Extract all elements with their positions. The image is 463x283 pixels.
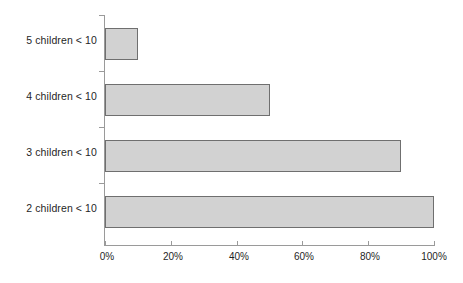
x-axis-tick bbox=[237, 241, 238, 246]
y-axis-category-label: 3 children < 10 bbox=[0, 146, 97, 158]
x-axis-tick-label: 40% bbox=[229, 251, 249, 263]
chart-row: 3 children < 10 bbox=[0, 127, 463, 183]
x-axis-tick bbox=[105, 241, 106, 246]
bar bbox=[105, 140, 401, 172]
bar bbox=[105, 28, 138, 60]
horizontal-bar-chart: 5 children < 10 4 children < 10 3 childr… bbox=[0, 0, 463, 283]
y-axis-tick bbox=[99, 71, 105, 72]
x-axis-line bbox=[104, 245, 435, 246]
x-axis-tick bbox=[434, 241, 435, 246]
x-axis-tick-label: 80% bbox=[360, 251, 380, 263]
chart-row: 4 children < 10 bbox=[0, 71, 463, 127]
x-axis-tick bbox=[302, 241, 303, 246]
chart-row: 2 children < 10 bbox=[0, 183, 463, 239]
x-axis-tick bbox=[368, 241, 369, 246]
x-axis-tick-label: 20% bbox=[163, 251, 183, 263]
y-axis-tick bbox=[99, 15, 105, 16]
y-axis-tick bbox=[99, 127, 105, 128]
x-axis-tick bbox=[171, 241, 172, 246]
y-axis-category-label: 5 children < 10 bbox=[0, 34, 97, 46]
y-axis-category-label: 4 children < 10 bbox=[0, 90, 97, 102]
x-axis-tick-label: 0% bbox=[100, 251, 114, 263]
x-axis-tick-label: 100% bbox=[421, 251, 447, 263]
y-axis-tick bbox=[99, 183, 105, 184]
bar bbox=[105, 84, 270, 116]
x-axis-tick-label: 60% bbox=[294, 251, 314, 263]
y-axis-category-label: 2 children < 10 bbox=[0, 202, 97, 214]
chart-row: 5 children < 10 bbox=[0, 15, 463, 71]
bar bbox=[105, 196, 434, 228]
